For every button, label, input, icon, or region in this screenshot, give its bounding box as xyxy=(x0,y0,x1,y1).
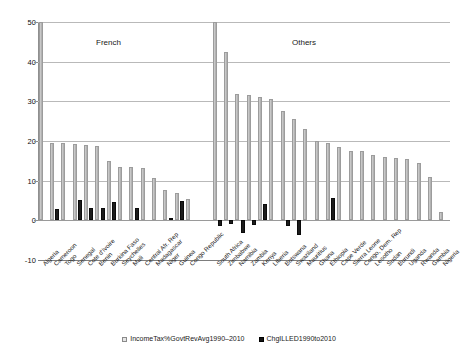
bar-income-tax-botswana xyxy=(281,111,285,220)
bar-chg-illed-botswana xyxy=(286,220,290,226)
bar-income-tax-burundi xyxy=(394,158,398,221)
bar-income-tax-burkina-faso xyxy=(107,161,111,221)
bar-chg-illed-zambia xyxy=(252,220,256,225)
section-title-others: Others xyxy=(292,38,316,47)
bar-income-tax-congo-dem-rep xyxy=(360,151,364,220)
bar-chg-illed-ethiopia xyxy=(331,198,335,220)
bar-chg-illed-zimbabwe xyxy=(229,220,233,223)
bar-income-tax-senegal xyxy=(73,144,77,221)
y-tick-label-20: 20 xyxy=(4,137,36,146)
bar-income-tax-sudan xyxy=(383,157,387,220)
bar-income-tax-liberia xyxy=(269,99,273,220)
bar-income-tax-kenya xyxy=(258,97,262,221)
bar-income-tax-central-afr-rep xyxy=(141,168,145,221)
bar-chg-illed-senegal xyxy=(78,200,82,221)
bar-income-tax-congo-republic xyxy=(186,199,190,220)
y-tick-label-30: 30 xyxy=(4,97,36,106)
bar-income-tax-gambia xyxy=(428,177,432,221)
plot-area xyxy=(38,22,450,260)
bar-income-tax-mauritius xyxy=(303,129,307,220)
bar-income-tax-madagascar xyxy=(152,178,156,220)
bar-income-tax-zambia xyxy=(247,95,251,220)
chart-legend: IncomeTax%GovtRevAvg1990–2010ChgILLED199… xyxy=(0,335,458,342)
bar-chg-illed-swaziland xyxy=(297,220,301,235)
bars-layer xyxy=(38,22,450,260)
legend-label: IncomeTax%GovtRevAvg1990–2010 xyxy=(130,335,244,342)
legend-label: ChgILLED1990to2010 xyxy=(267,335,336,342)
bar-chg-illed-burkina-faso xyxy=(112,202,116,221)
bar-chg-illed-mali xyxy=(135,208,139,220)
bar-income-tax-togo xyxy=(61,143,65,220)
section-title-french: French xyxy=(96,38,121,47)
bar-chg-illed-south-africa xyxy=(218,220,222,226)
bar-chg-illed-kenya xyxy=(263,204,267,220)
bar-income-tax-south-africa xyxy=(213,22,217,220)
bar-income-tax-ghana xyxy=(315,141,319,220)
bar-income-tax-uganda xyxy=(405,159,409,220)
bar-income-tax-seychelles xyxy=(118,167,122,221)
legend-item: ChgILLED1990to2010 xyxy=(259,335,336,342)
dark-square-icon xyxy=(259,337,264,342)
bar-income-tax-lesotho xyxy=(371,155,375,220)
bar-income-tax-sierra-leone xyxy=(349,151,353,220)
bar-chg-illed-cameroon xyxy=(55,209,59,220)
bar-income-tax-mali xyxy=(129,167,133,220)
bar-income-tax-ethiopia xyxy=(326,143,330,221)
bar-chg-illed-cote-d-ivoire xyxy=(89,208,93,220)
bar-chg-illed-niger xyxy=(169,218,173,220)
bar-income-tax-algeria xyxy=(39,22,43,220)
y-tick-label-10: 10 xyxy=(4,176,36,185)
legend-item: IncomeTax%GovtRevAvg1990–2010 xyxy=(122,335,244,342)
bar-income-tax-guinea xyxy=(175,193,179,220)
bar-income-tax-namibia xyxy=(235,94,239,220)
bar-income-tax-swaziland xyxy=(292,119,296,220)
bar-income-tax-cape-verde xyxy=(337,147,341,220)
bar-chg-illed-guinea xyxy=(180,201,184,221)
x-axis-labels: AlgeriaCameroonTogoSenegalCote d'IvoireB… xyxy=(0,262,458,332)
bar-income-tax-cote-d-ivoire xyxy=(84,145,88,220)
light-square-icon xyxy=(122,337,127,342)
y-tick-label-50: 50 xyxy=(4,18,36,27)
bar-income-tax-rwanda xyxy=(417,163,421,220)
bar-chg-illed-namibia xyxy=(241,220,245,233)
bar-income-tax-niger xyxy=(163,190,167,220)
bar-income-tax-benin xyxy=(95,146,99,221)
y-tick-label-40: 40 xyxy=(4,57,36,66)
bar-income-tax-cameroon xyxy=(50,143,54,220)
bar-income-tax-nigeria xyxy=(439,212,443,220)
bar-income-tax-zimbabwe xyxy=(224,52,228,221)
bar-chg-illed-benin xyxy=(101,208,105,221)
y-tick-label-0: 0 xyxy=(4,216,36,225)
